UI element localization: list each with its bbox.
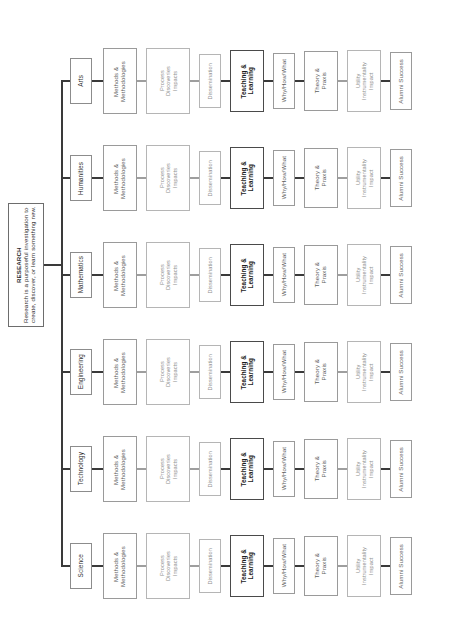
stage-node: Dissemination <box>199 442 221 496</box>
stage-connector <box>137 468 146 470</box>
stage-node: Alumni Success <box>390 537 412 595</box>
stage-node: Dissemination <box>199 151 221 205</box>
stage-connector <box>92 274 103 276</box>
stage-node: Dissemination <box>199 539 221 593</box>
stage-label: Utility Instrumentality Impact <box>355 547 374 585</box>
stage-node: Teaching & Learning <box>230 50 264 112</box>
stage-label: Theory & Praxis <box>314 68 328 94</box>
stage-node: Dissemination <box>199 54 221 108</box>
stage-connector <box>381 177 390 179</box>
stage-label: Theory & Praxis <box>314 456 328 482</box>
stage-connector <box>264 274 273 276</box>
stage-node: Why/How/What <box>273 150 295 206</box>
branch-connector <box>61 80 70 82</box>
root-text: RESEARCH Research is a purposeful invest… <box>16 204 37 326</box>
stage-connector <box>221 274 230 276</box>
trunk-stub <box>44 264 62 266</box>
stage-label: Methods & Methodologies <box>113 61 127 102</box>
stage-label: Theory & Praxis <box>314 359 328 385</box>
discipline-label: Humanities <box>77 162 84 195</box>
stage-node: Process Discoveries Impacts <box>146 145 190 211</box>
stage-connector <box>190 80 199 82</box>
stage-node: Alumni Success <box>390 149 412 207</box>
stage-label: Why/How/What <box>281 447 288 490</box>
stage-connector <box>264 371 273 373</box>
stage-connector <box>295 274 304 276</box>
stage-connector <box>137 565 146 567</box>
stage-connector <box>295 371 304 373</box>
stage-node: Utility Instrumentality Impact <box>347 535 381 597</box>
stage-node: Why/How/What <box>273 344 295 400</box>
stage-label: Utility Instrumentality Impact <box>355 450 374 488</box>
stage-label: Alumni Success <box>398 447 405 492</box>
stage-connector <box>137 177 146 179</box>
branch-connector <box>61 371 70 373</box>
branch-connector <box>61 565 70 567</box>
stage-label: Why/How/What <box>281 156 288 199</box>
stage-label: Process Discoveries Impacts <box>159 66 178 96</box>
stage-label: Why/How/What <box>281 350 288 393</box>
stage-connector <box>338 371 347 373</box>
discipline-node-technology: Technology <box>70 446 92 492</box>
stage-node: Teaching & Learning <box>230 341 264 403</box>
stage-connector <box>190 177 199 179</box>
stage-label: Dissemination <box>207 257 213 293</box>
stage-connector <box>221 468 230 470</box>
stage-connector <box>190 371 199 373</box>
stage-node: Dissemination <box>199 248 221 302</box>
root-node-research: RESEARCH Research is a purposeful invest… <box>8 203 44 327</box>
stage-label: Theory & Praxis <box>314 553 328 579</box>
stage-label: Teaching & Learning <box>240 355 254 389</box>
stage-connector <box>137 371 146 373</box>
discipline-node-humanities: Humanities <box>70 155 92 201</box>
stage-label: Methods & Methodologies <box>113 449 127 490</box>
stage-node: Process Discoveries Impacts <box>146 48 190 114</box>
stage-node: Methods & Methodologies <box>103 339 137 405</box>
stage-label: Methods & Methodologies <box>113 255 127 296</box>
stage-node: Methods & Methodologies <box>103 242 137 308</box>
stage-label: Methods & Methodologies <box>113 546 127 587</box>
stage-node: Teaching & Learning <box>230 147 264 209</box>
discipline-label: Arts <box>77 75 84 87</box>
stage-connector <box>92 80 103 82</box>
stage-connector <box>295 177 304 179</box>
stage-connector <box>190 468 199 470</box>
root-description: Research is a purposeful investigation t… <box>22 207 36 324</box>
stage-connector <box>190 565 199 567</box>
stage-label: Dissemination <box>207 63 213 99</box>
stage-connector <box>381 565 390 567</box>
stage-connector <box>264 177 273 179</box>
branch-connector <box>61 468 70 470</box>
stage-label: Dissemination <box>207 451 213 487</box>
stage-node: Theory & Praxis <box>304 51 338 111</box>
stage-connector <box>381 371 390 373</box>
discipline-node-science: Science <box>70 543 92 589</box>
stage-node: Theory & Praxis <box>304 536 338 596</box>
stage-node: Utility Instrumentality Impact <box>347 244 381 306</box>
branch-connector <box>61 177 70 179</box>
stage-node: Alumni Success <box>390 52 412 110</box>
figure-canvas: RESEARCH Research is a purposeful invest… <box>0 0 454 622</box>
stage-connector <box>264 565 273 567</box>
stage-connector <box>381 274 390 276</box>
stage-node: Utility Instrumentality Impact <box>347 147 381 209</box>
stage-node: Process Discoveries Impacts <box>146 339 190 405</box>
stage-node: Process Discoveries Impacts <box>146 242 190 308</box>
stage-connector <box>338 468 347 470</box>
stage-connector <box>295 565 304 567</box>
stage-label: Alumni Success <box>398 544 405 589</box>
discipline-node-mathematics: Mathematics <box>70 252 92 298</box>
stage-node: Utility Instrumentality Impact <box>347 438 381 500</box>
stage-label: Utility Instrumentality Impact <box>355 353 374 391</box>
stage-label: Process Discoveries Impacts <box>159 454 178 484</box>
stage-connector <box>221 565 230 567</box>
stage-connector <box>264 468 273 470</box>
stage-label: Why/How/What <box>281 253 288 296</box>
stage-connector <box>381 80 390 82</box>
stage-connector <box>295 468 304 470</box>
stage-connector <box>137 274 146 276</box>
stage-connector <box>338 177 347 179</box>
stage-label: Alumni Success <box>398 350 405 395</box>
stage-label: Teaching & Learning <box>240 549 254 583</box>
discipline-label: Science <box>77 554 84 577</box>
